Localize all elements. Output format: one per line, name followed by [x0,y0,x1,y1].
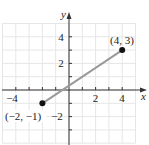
y-axis-arrow-icon [67,12,72,19]
coordinate-plane: y x −4 2 4 4 2 −2 (4, 3) (−2, −1) [0,0,149,145]
tick-label-y-4: 4 [58,31,64,43]
point-a [39,100,45,106]
tick-label-x-4: 4 [119,92,125,104]
x-axis-label: x [140,90,146,102]
axes [2,12,147,145]
point-b-label: (4, 3) [110,34,134,47]
tick-label-y-2: 2 [58,57,64,69]
tick-label-y-neg2: −2 [51,110,63,122]
y-axis-label: y [60,8,66,20]
tick-label-x-neg4: −4 [6,92,18,104]
point-b [119,47,125,53]
point-a-label: (−2, −1) [5,110,42,123]
tick-label-x-2: 2 [93,92,99,104]
